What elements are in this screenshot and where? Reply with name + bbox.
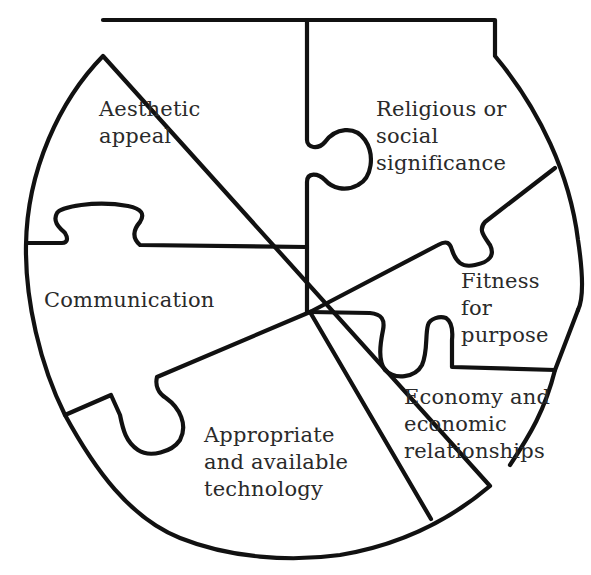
label-fitness-for-purpose: Fitness for purpose — [461, 268, 549, 349]
label-appropriate-available-technology: Appropriate and available technology — [204, 422, 348, 503]
label-economy-economic-relationships: Economy and economic relationships — [404, 384, 550, 465]
label-aesthetic-appeal: Aesthetic appeal — [99, 96, 200, 150]
label-religious-social-significance: Religious or social significance — [376, 96, 507, 177]
label-communication: Communication — [44, 287, 215, 314]
divider-aesthetic-communication — [26, 204, 307, 247]
divider-aesthetic-religious — [307, 20, 371, 312]
